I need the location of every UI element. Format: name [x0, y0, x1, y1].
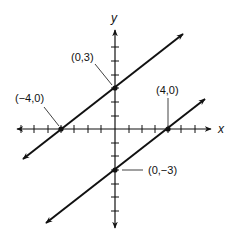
y-axis-label: y	[110, 11, 118, 25]
label-neg4-0: (−4,0)	[15, 92, 44, 104]
leader-0-3	[95, 64, 112, 85]
label-4-0: (4,0)	[156, 84, 179, 96]
upper-line	[23, 34, 183, 159]
point-neg4-0	[58, 126, 63, 131]
point-4-0	[165, 126, 170, 131]
label-0-3: (0,3)	[71, 51, 94, 63]
point-0-neg3	[112, 167, 117, 172]
label-0-neg3: (0,−3)	[148, 164, 177, 176]
x-axis-label: x	[217, 122, 225, 136]
coordinate-graph: x y (0,3) (−4,0) (4,0) (0,−3)	[0, 0, 236, 240]
leader-neg4-0	[44, 107, 59, 126]
point-0-3	[112, 85, 117, 90]
lower-line	[46, 99, 205, 223]
